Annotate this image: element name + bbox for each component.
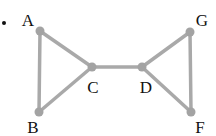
node-label-F: F [195, 119, 204, 136]
edge-B-C [39, 67, 92, 112]
graph-edges [39, 31, 191, 112]
node-B [35, 108, 44, 117]
node-label-C: C [87, 79, 98, 96]
node-D [138, 63, 147, 72]
node-label-B: B [27, 119, 38, 136]
node-F [187, 108, 196, 117]
node-label-D: D [140, 79, 152, 96]
node-label-A: A [22, 12, 34, 29]
edge-D-G [142, 32, 190, 67]
graph-nodes [35, 27, 196, 117]
node-A [36, 27, 45, 36]
node-G [186, 28, 195, 37]
edge-A-C [40, 31, 92, 67]
node-label-G: G [196, 12, 208, 29]
edge-G-F [190, 32, 191, 112]
node-C [88, 63, 97, 72]
edge-A-B [39, 31, 40, 112]
